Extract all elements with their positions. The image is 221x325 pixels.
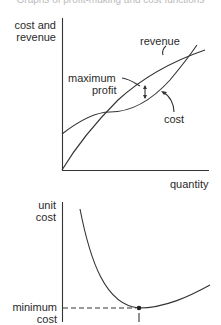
- bottom-y-label-1: unit: [0, 199, 56, 211]
- maximum-profit-label-1: maximum: [68, 72, 116, 84]
- top-y-label-2: revenue: [0, 31, 56, 43]
- bottom-y-label-2: cost: [0, 211, 56, 223]
- minimum-point: [137, 306, 142, 311]
- maximum-profit-label-2: profit: [92, 84, 116, 96]
- cost-label: cost: [164, 113, 184, 125]
- max-profit-leader: [122, 78, 140, 86]
- quantity-label: quantity: [170, 178, 209, 190]
- revenue-curve: [62, 50, 205, 170]
- cost-leader: [163, 92, 174, 112]
- minimum-cost-label-2: cost: [0, 313, 57, 325]
- minimum-cost-label-1: minimum: [0, 301, 57, 313]
- revenue-label: revenue: [140, 35, 180, 47]
- top-y-label-1: cost and: [0, 19, 56, 31]
- revenue-leader: [163, 46, 166, 55]
- unit-cost-curve: [80, 209, 210, 308]
